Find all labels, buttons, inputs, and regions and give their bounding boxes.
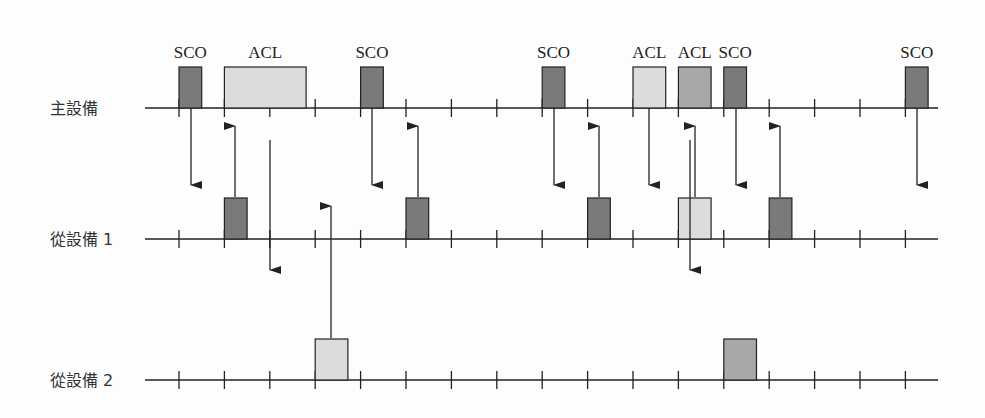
packet-sco bbox=[224, 198, 247, 239]
packet-label: SCO bbox=[900, 43, 933, 62]
packet-box bbox=[678, 198, 711, 239]
packet-label: SCO bbox=[719, 43, 752, 62]
packets-layer: SCOACLSCOSCOACLACLSCOSCO bbox=[174, 43, 933, 380]
packet-label: SCO bbox=[174, 43, 207, 62]
packet-box bbox=[724, 67, 747, 108]
rows-layer: 主設備從設備 1從設備 2 bbox=[50, 99, 938, 390]
piconet-timing-diagram: 主設備從設備 1從設備 2 SCOACLSCOSCOACLACLSCOSCO bbox=[0, 0, 985, 418]
packet-acl_light: ACL bbox=[224, 43, 306, 108]
timing-diagram-canvas: 主設備從設備 1從設備 2 SCOACLSCOSCOACLACLSCOSCO bbox=[0, 0, 985, 418]
packet-acl_light bbox=[315, 339, 348, 380]
packet-box bbox=[678, 67, 711, 108]
packet-box bbox=[315, 339, 348, 380]
packet-box bbox=[769, 198, 792, 239]
packet-sco bbox=[769, 198, 792, 239]
row-label: 主設備 bbox=[50, 99, 98, 118]
timeline-row-slave2: 從設備 2 bbox=[50, 371, 938, 390]
packet-box bbox=[224, 198, 247, 239]
packet-box bbox=[633, 67, 666, 108]
packet-box bbox=[588, 198, 611, 239]
packet-label: ACL bbox=[632, 43, 666, 62]
packet-label: ACL bbox=[678, 43, 712, 62]
packet-acl_light: ACL bbox=[632, 43, 666, 108]
packet-sco: SCO bbox=[355, 43, 388, 108]
packet-box bbox=[542, 67, 565, 108]
arrows-layer bbox=[191, 108, 917, 338]
packet-sco: SCO bbox=[900, 43, 933, 108]
packet-label: SCO bbox=[537, 43, 570, 62]
timeline-row-slave1: 從設備 1 bbox=[50, 230, 938, 249]
packet-sco bbox=[406, 198, 429, 239]
packet-sco: SCO bbox=[174, 43, 207, 108]
packet-box bbox=[724, 339, 757, 380]
packet-sco bbox=[588, 198, 611, 239]
packet-box bbox=[406, 198, 429, 239]
packet-acl_mid bbox=[724, 339, 757, 380]
row-label: 從設備 2 bbox=[50, 371, 113, 390]
packet-label: SCO bbox=[355, 43, 388, 62]
packet-box bbox=[905, 67, 928, 108]
packet-sco: SCO bbox=[719, 43, 752, 108]
packet-box bbox=[361, 67, 384, 108]
packet-acl_light bbox=[678, 198, 711, 239]
packet-box bbox=[224, 67, 306, 108]
packet-acl_mid: ACL bbox=[678, 43, 712, 108]
packet-box bbox=[179, 67, 202, 108]
row-label: 從設備 1 bbox=[50, 230, 113, 249]
packet-label: ACL bbox=[248, 43, 282, 62]
packet-sco: SCO bbox=[537, 43, 570, 108]
